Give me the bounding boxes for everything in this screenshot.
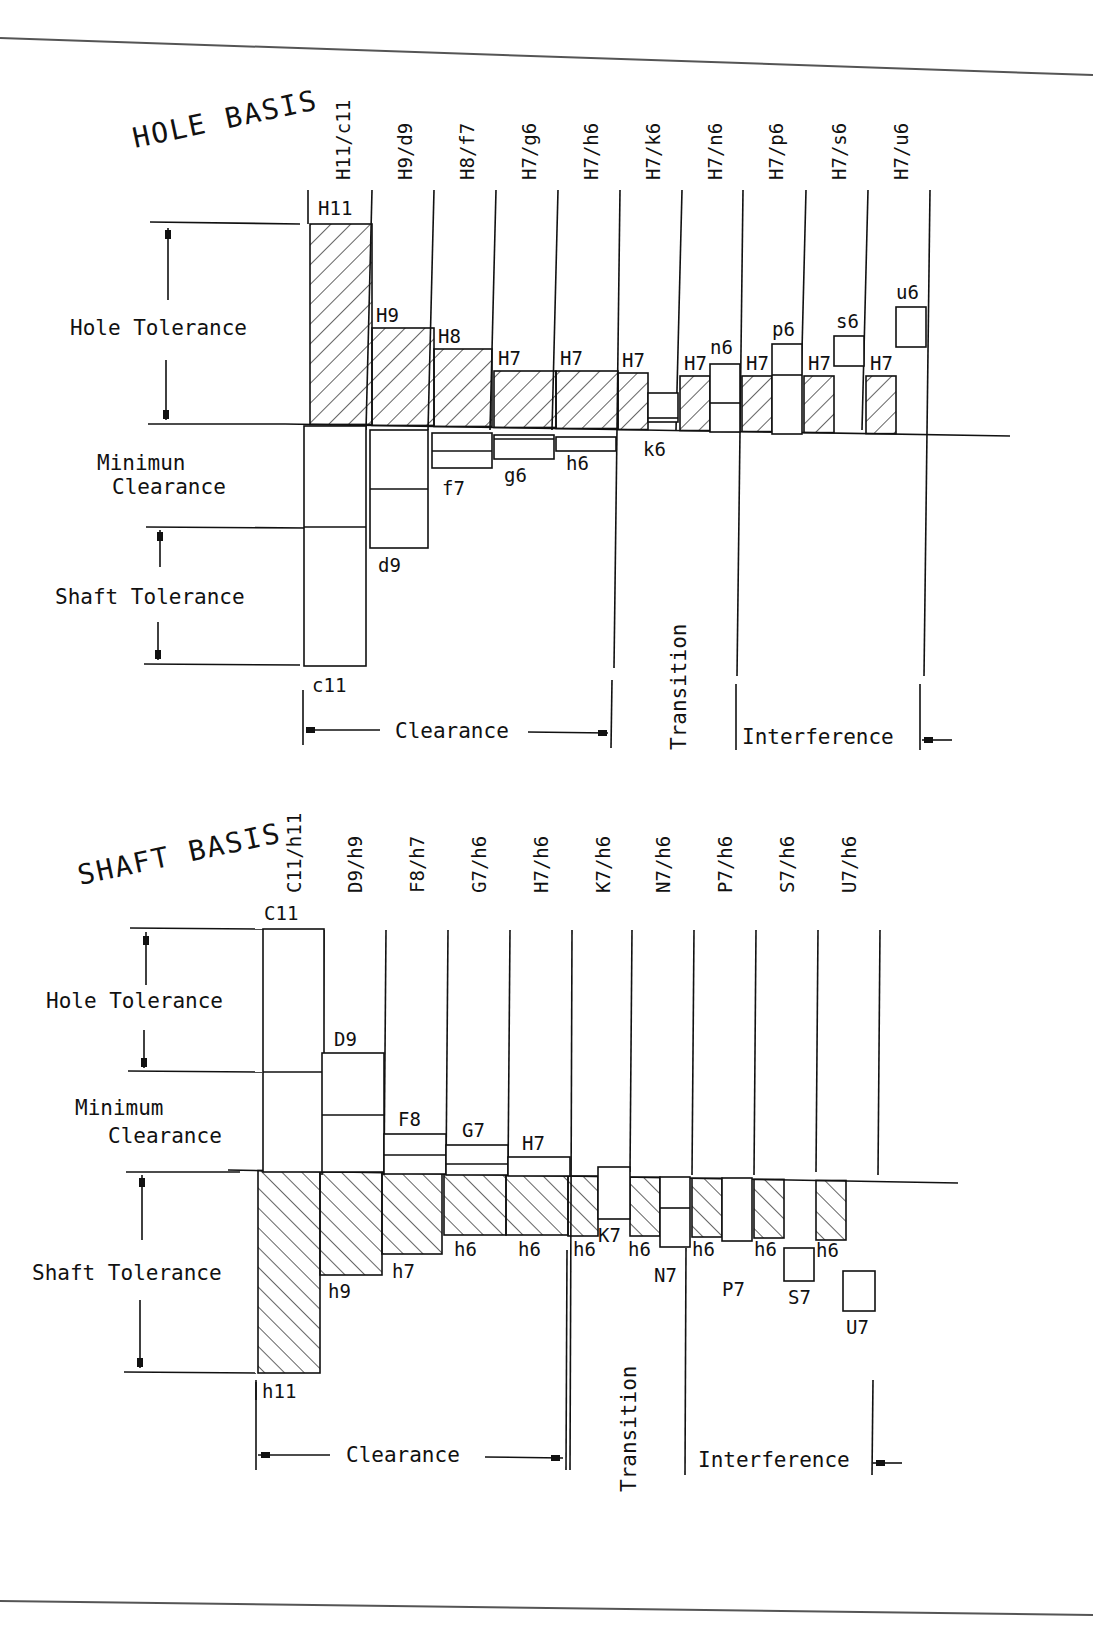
shaft-tolerance-zone bbox=[320, 1172, 382, 1275]
arrowhead-icon bbox=[924, 737, 933, 743]
hole-zone-label: H7 bbox=[684, 352, 707, 374]
fit-label: H7/h6 bbox=[580, 123, 602, 180]
fit-label: H7/s6 bbox=[828, 123, 850, 180]
shaft-tolerance-zone bbox=[692, 1178, 722, 1237]
shaft-zone-label: u6 bbox=[896, 281, 919, 303]
shaft-zone-label: n6 bbox=[710, 336, 733, 358]
shaft-zone-label: d9 bbox=[378, 554, 401, 576]
hole-tolerance-zone bbox=[508, 1157, 570, 1176]
shaft-tolerance-zone bbox=[754, 1179, 784, 1238]
shaft-tolerance-zone bbox=[258, 1171, 320, 1373]
shaft-zone-label: h6 bbox=[566, 452, 589, 474]
shaft-tolerance-zone bbox=[506, 1175, 568, 1235]
sb-hole-tolerance-label: Hole Tolerance bbox=[46, 989, 223, 1013]
shaft-zone-label: h6 bbox=[573, 1238, 596, 1260]
hole-basis-title: HOLE BASIS bbox=[130, 83, 321, 154]
hole-tolerance-zone bbox=[322, 1053, 384, 1172]
hole-tolerance-zone bbox=[804, 376, 834, 433]
fit-label: C11/h11 bbox=[283, 813, 305, 893]
arrowhead-icon bbox=[551, 1455, 560, 1461]
column-divider bbox=[508, 930, 510, 1175]
fit-label: P7/h6 bbox=[714, 836, 736, 893]
hole-zone-label: H8 bbox=[438, 325, 461, 347]
hb-clearance-label: Clearance bbox=[112, 475, 226, 499]
hb-interference-category: Interference bbox=[742, 725, 894, 749]
hole-tolerance-zone bbox=[722, 1178, 752, 1241]
hole-zone-label: P7 bbox=[722, 1278, 745, 1300]
shaft-zone-label: h6 bbox=[754, 1238, 777, 1260]
fit-label: K7/h6 bbox=[592, 836, 614, 893]
arrowhead-icon bbox=[261, 1452, 270, 1458]
hole-zone-label: H7 bbox=[622, 349, 645, 371]
shaft-tolerance-zone bbox=[710, 364, 740, 432]
hb-transition-category: Transition bbox=[667, 624, 691, 750]
shaft-tolerance-zone bbox=[834, 336, 864, 366]
shaft-tolerance-zone bbox=[772, 344, 802, 434]
column-divider bbox=[737, 190, 743, 676]
page-top-border bbox=[0, 38, 1093, 75]
hole-tolerance-zone bbox=[434, 349, 492, 426]
fit-label: H7/u6 bbox=[890, 123, 912, 180]
hole-zone-label: F8 bbox=[398, 1108, 421, 1130]
shaft-tolerance-zone bbox=[304, 426, 366, 666]
fit-label: H8/f7 bbox=[456, 123, 478, 180]
sb-guide-min bbox=[128, 1071, 262, 1072]
fit-label: H7/p6 bbox=[765, 123, 787, 180]
fit-label: U7/h6 bbox=[838, 836, 860, 893]
fit-label: H7/g6 bbox=[518, 123, 540, 180]
fit-label: H7/h6 bbox=[530, 836, 552, 893]
hole-tolerance-zone bbox=[742, 376, 772, 432]
fit-label: F8/h7 bbox=[406, 836, 428, 893]
hole-tolerance-zone bbox=[680, 376, 710, 431]
hole-basis-diagram: HOLE BASIS H11/c11H9/d9H8/f7H7/g6H7/h6H7… bbox=[55, 83, 1010, 750]
hole-zone-label: C11 bbox=[264, 902, 298, 924]
arrowhead-icon bbox=[598, 730, 607, 736]
shaft-basis-title: SHAFT BASIS bbox=[75, 816, 285, 891]
hole-zone-label: H9 bbox=[376, 304, 399, 326]
sb-guide-bottom bbox=[124, 1372, 256, 1373]
arrowhead-icon bbox=[143, 936, 149, 945]
hole-tolerance-zone bbox=[556, 371, 618, 428]
hole-zone-label: H7 bbox=[808, 352, 831, 374]
hole-zone-label: H11 bbox=[318, 197, 352, 219]
sb-guide-top bbox=[130, 928, 263, 929]
hole-basis-fit-labels: H11/c11H9/d9H8/f7H7/g6H7/h6H7/k6H7/n6H7/… bbox=[332, 100, 912, 180]
shaft-basis-hole-zones: C11D9F8G7H7K7N7P7S7U7 bbox=[256, 902, 875, 1400]
shaft-basis-fit-labels: C11/h11D9/h9F8/h7G7/h6H7/h6K7/h6N7/h6P7/… bbox=[283, 813, 860, 893]
shaft-zone-label: h6 bbox=[692, 1238, 715, 1260]
hole-tolerance-zone bbox=[494, 371, 556, 427]
clearance-right-tick bbox=[611, 680, 612, 748]
sb-clearance-label: Clearance bbox=[108, 1124, 222, 1148]
interference-left-tick bbox=[685, 1248, 686, 1475]
hole-zone-label: N7 bbox=[654, 1264, 677, 1286]
shaft-tolerance-zone bbox=[630, 1177, 660, 1236]
hb-shaft-tolerance-label: Shaft Tolerance bbox=[55, 585, 245, 609]
hole-zone-label: H7 bbox=[560, 347, 583, 369]
column-divider bbox=[754, 930, 756, 1175]
shaft-zone-label: g6 bbox=[504, 464, 527, 486]
hb-guide-top bbox=[150, 222, 300, 224]
shaft-zone-label: h9 bbox=[328, 1280, 351, 1302]
arrowhead-icon bbox=[306, 727, 315, 733]
hole-zone-label: H7 bbox=[522, 1132, 545, 1154]
fit-label: N7/h6 bbox=[652, 836, 674, 893]
shaft-zone-label: h6 bbox=[816, 1239, 839, 1261]
hole-tolerance-zone bbox=[618, 373, 648, 430]
hole-tolerance-zone bbox=[660, 1177, 690, 1247]
hole-zone-label: H7 bbox=[746, 352, 769, 374]
sb-minimum-label: Minimum bbox=[75, 1096, 164, 1120]
hb-guide-bottom bbox=[144, 664, 300, 665]
hole-zone-label: H7 bbox=[498, 347, 521, 369]
shaft-tolerance-zone bbox=[556, 437, 616, 451]
column-divider bbox=[816, 930, 818, 1172]
shaft-zone-label: f7 bbox=[442, 477, 465, 499]
page-bottom-border bbox=[0, 1601, 1093, 1615]
hole-zone-label: S7 bbox=[788, 1286, 811, 1308]
shaft-zone-label: k6 bbox=[643, 438, 666, 460]
shaft-basis-shaft-zones: h11h9h7h6h6h6h6h6h6h6 bbox=[258, 1171, 846, 1402]
arrowhead-icon bbox=[157, 532, 163, 541]
shaft-zone-label: p6 bbox=[772, 318, 795, 340]
fit-label: G7/h6 bbox=[468, 836, 490, 893]
hole-tolerance-zone bbox=[384, 1134, 446, 1174]
fit-label: S7/h6 bbox=[776, 836, 798, 893]
